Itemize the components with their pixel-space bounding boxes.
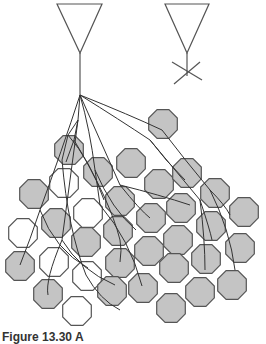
octagon-empty — [9, 219, 38, 248]
octagon-filled — [135, 237, 164, 266]
octagon-filled — [164, 226, 193, 255]
diagram-canvas — [0, 0, 266, 330]
octagon-filled — [218, 271, 247, 300]
octagon-filled — [149, 110, 178, 139]
figure-caption: Figure 13.30 A — [2, 330, 84, 344]
neurons — [57, 4, 209, 95]
octagon-filled — [129, 274, 158, 303]
octagon-filled — [20, 180, 49, 209]
octagon-empty — [63, 297, 92, 326]
octagon-filled — [6, 252, 35, 281]
octagon-filled — [167, 194, 196, 223]
octagon-filled — [117, 149, 146, 178]
octagon-filled — [192, 245, 221, 274]
octagon-filled — [137, 204, 166, 233]
octagon-filled — [84, 158, 113, 187]
octagon-filled — [186, 278, 215, 307]
octagon-filled — [201, 179, 230, 208]
octagon-empty — [74, 199, 103, 228]
octagon-filled — [145, 170, 174, 199]
neuron-right-soma — [165, 4, 209, 53]
octagon-filled — [160, 254, 189, 283]
octagon-filled — [98, 277, 127, 306]
octagon-filled — [226, 234, 255, 263]
octagon-filled — [230, 198, 259, 227]
neuron-left-soma — [57, 4, 102, 53]
octagon-filled — [157, 294, 186, 323]
octagon-filled — [72, 228, 101, 257]
